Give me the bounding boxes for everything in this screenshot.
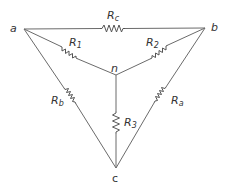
rc-symbol-text: R <box>107 9 115 22</box>
node-b-label: b <box>211 22 218 33</box>
branch-b-c <box>116 28 205 168</box>
r3-symbol-text: R <box>124 116 132 129</box>
branch-a-b <box>24 25 205 32</box>
resistor-rc-symbol <box>100 25 125 32</box>
resistor-rc-label: Rc <box>107 10 119 23</box>
r2-subscript-text: 2 <box>154 41 159 50</box>
resistor-rb-label: Rb <box>51 95 64 108</box>
branch-b-n <box>116 28 205 75</box>
rb-symbol-text: R <box>51 94 59 107</box>
node-a-label: a <box>10 23 17 34</box>
r1-subscript-text: 1 <box>77 41 82 50</box>
resistor-r3-symbol <box>113 111 120 134</box>
resistor-r1-label: R1 <box>69 37 82 50</box>
branch-n-c <box>113 75 120 168</box>
node-c-label: c <box>112 173 118 184</box>
resistor-r2-label: R2 <box>146 37 159 50</box>
r1-symbol-text: R <box>69 36 77 49</box>
rc-subscript-text: c <box>115 14 119 23</box>
ra-subscript-text: a <box>179 99 184 108</box>
node-n-label: n <box>111 63 118 74</box>
resistor-ra-symbol <box>154 87 166 103</box>
r2-symbol-text: R <box>146 36 154 49</box>
resistor-r3-label: R3 <box>124 117 137 130</box>
r3-subscript-text: 3 <box>132 121 137 130</box>
circuit-diagram <box>0 0 225 188</box>
ra-symbol-text: R <box>171 94 179 107</box>
rb-subscript-text: b <box>59 99 64 108</box>
resistor-ra-label: Ra <box>171 95 184 108</box>
resistor-rb-symbol <box>64 88 76 104</box>
